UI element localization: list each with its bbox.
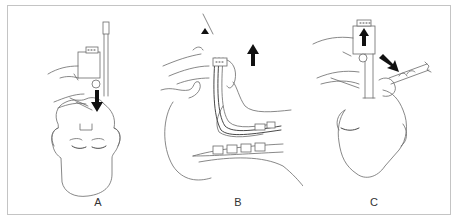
tube-3 <box>222 58 273 127</box>
face-profile <box>233 82 291 112</box>
arrow-up-icon <box>247 44 259 66</box>
tube-break <box>425 62 431 72</box>
hand-lower <box>54 94 92 110</box>
vertebra-4 <box>255 143 265 151</box>
vertebra-2 <box>227 145 237 153</box>
tube-connector <box>103 22 109 34</box>
hand-lower <box>317 71 359 88</box>
eye-closed <box>341 128 359 130</box>
panel-a: A <box>8 6 153 216</box>
hand-right <box>379 78 395 96</box>
figure-frame: A <box>7 5 451 215</box>
hand-upper <box>313 37 353 56</box>
ear-left <box>52 128 58 146</box>
spine-outline <box>193 144 283 156</box>
panel-a-illustration <box>8 6 153 216</box>
arrow-diagonal-icon <box>379 54 399 72</box>
panel-c-illustration <box>303 6 452 216</box>
eye-right-closed <box>92 146 106 148</box>
hand-upper <box>48 66 78 80</box>
brow-right <box>92 139 104 141</box>
panel-label-c: C <box>364 196 384 208</box>
panel-b-illustration <box>153 6 303 216</box>
thumb <box>359 54 367 62</box>
nose <box>80 124 92 130</box>
tube-cuff-1 <box>255 124 265 130</box>
ear-right <box>114 128 120 146</box>
panel-c: C <box>303 6 452 216</box>
vertebra-1 <box>213 146 223 154</box>
panel-label-b: B <box>228 196 248 208</box>
eye-marker <box>201 28 209 34</box>
vertebra-3 <box>241 144 251 152</box>
panel-label-a: A <box>88 196 108 208</box>
brow-left <box>70 139 82 141</box>
hand <box>163 47 209 84</box>
head-back <box>161 82 211 180</box>
device-body <box>78 52 100 78</box>
neck <box>199 158 303 186</box>
head-outline <box>338 90 406 177</box>
eye-left-closed <box>72 146 86 148</box>
thumb <box>92 80 100 88</box>
panel-b: B <box>153 6 303 216</box>
tube-cuff-2 <box>267 122 275 128</box>
tube <box>104 34 108 96</box>
